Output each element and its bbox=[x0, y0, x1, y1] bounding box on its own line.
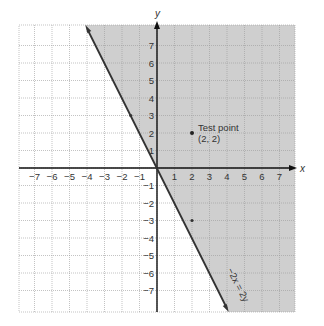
y-tick-label: −4 bbox=[143, 233, 154, 244]
y-tick-label: −7 bbox=[143, 285, 154, 296]
y-tick-label: 3 bbox=[149, 110, 154, 121]
y-tick-label: −5 bbox=[143, 250, 154, 261]
test-point-label: Test point bbox=[198, 122, 239, 133]
y-tick-label: 6 bbox=[149, 58, 154, 69]
x-tick-label: 1 bbox=[172, 171, 177, 182]
y-tick-label: 2 bbox=[149, 128, 154, 139]
y-tick-label: 5 bbox=[149, 75, 154, 86]
x-tick-label: −2 bbox=[117, 171, 128, 182]
x-tick-label: −7 bbox=[29, 171, 40, 182]
x-tick-label: 6 bbox=[259, 171, 264, 182]
y-tick-label: −6 bbox=[143, 268, 154, 279]
x-tick-label: −4 bbox=[82, 171, 93, 182]
y-tick-label: 4 bbox=[149, 93, 154, 104]
x-axis-label: x bbox=[299, 163, 306, 174]
y-tick-label: −1 bbox=[143, 180, 154, 191]
x-tick-label: 5 bbox=[242, 171, 247, 182]
inequality-graph: −7−6−5−4−3−2−11234567−7−6−5−4−3−2−112345… bbox=[0, 0, 324, 326]
test-point-coords: (2, 2) bbox=[198, 133, 220, 144]
y-tick-label: 1 bbox=[149, 145, 154, 156]
y-axis-label: y bbox=[154, 8, 161, 19]
x-tick-label: 2 bbox=[189, 171, 194, 182]
x-tick-label: 4 bbox=[224, 171, 229, 182]
x-tick-label: 3 bbox=[207, 171, 212, 182]
line-point-marker bbox=[190, 219, 193, 222]
line-point-marker bbox=[129, 114, 132, 117]
x-tick-label: −6 bbox=[47, 171, 58, 182]
x-tick-label: −3 bbox=[99, 171, 110, 182]
test-point-marker bbox=[190, 131, 194, 135]
y-tick-label: 7 bbox=[149, 40, 154, 51]
y-tick-label: −2 bbox=[143, 198, 154, 209]
x-tick-label: −5 bbox=[64, 171, 75, 182]
x-tick-label: 7 bbox=[277, 171, 282, 182]
y-tick-label: −3 bbox=[143, 215, 154, 226]
